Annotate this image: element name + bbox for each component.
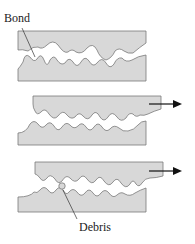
- stage-2-bottom-body: [18, 121, 146, 145]
- stage-2-arrowhead-icon: [173, 100, 182, 108]
- stage-3-debris: [18, 162, 182, 219]
- adhesive-wear-diagram: [0, 0, 195, 244]
- stage-3-top-body: [35, 162, 163, 187]
- bond-label: Bond: [4, 12, 30, 24]
- stage-3-bottom-body: [18, 188, 146, 213]
- stage-1-top-body: [18, 31, 146, 60]
- stage-3-arrowhead-icon: [173, 167, 182, 175]
- stage-2-top-body: [33, 96, 161, 120]
- debris-label: Debris: [79, 221, 111, 233]
- stage-1-bonded: [18, 28, 146, 81]
- debris-particle: [59, 183, 65, 189]
- stage-2-sliding: [18, 96, 182, 145]
- stage-1-bottom-body: [18, 55, 146, 81]
